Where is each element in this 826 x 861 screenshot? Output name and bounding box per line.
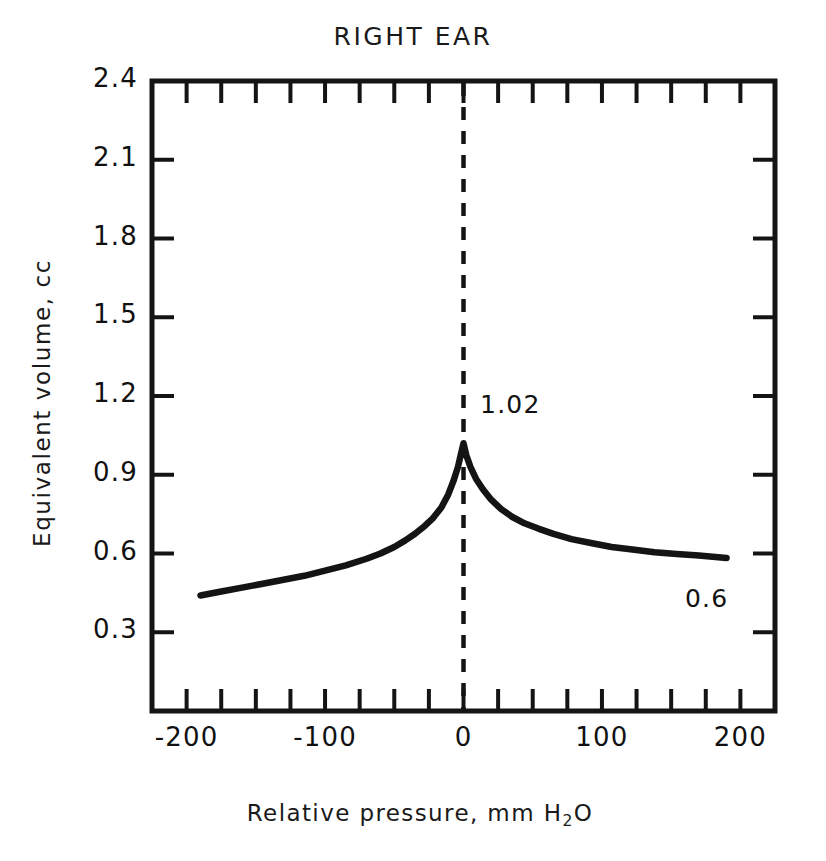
x-tick-label: 200 (670, 722, 810, 752)
x-tick-label: 100 (532, 722, 672, 752)
y-tick-label: 1.5 (42, 299, 138, 329)
y-tick-label: 1.2 (42, 378, 138, 408)
x-tick-label: -100 (255, 722, 395, 752)
x-tick-label: -200 (117, 722, 257, 752)
y-tick-label: 0.9 (42, 457, 138, 487)
y-tick-label: 1.8 (42, 221, 138, 251)
peak-value: 1.02 (480, 390, 540, 419)
tail-value: 0.6 (685, 584, 728, 613)
y-tick-label: 0.6 (42, 536, 138, 566)
tympanogram-figure: RIGHT EAR Equivalent volume, cc Relative… (0, 0, 826, 861)
x-tick-label: 0 (394, 722, 534, 752)
y-tick-label: 2.4 (42, 63, 138, 93)
y-tick-label: 2.1 (42, 142, 138, 172)
y-tick-label: 0.3 (42, 614, 138, 644)
